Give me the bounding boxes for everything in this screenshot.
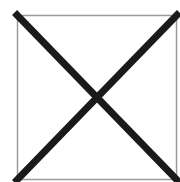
image-placeholder bbox=[0, 0, 180, 182]
image-placeholder-x-icon bbox=[0, 0, 180, 182]
